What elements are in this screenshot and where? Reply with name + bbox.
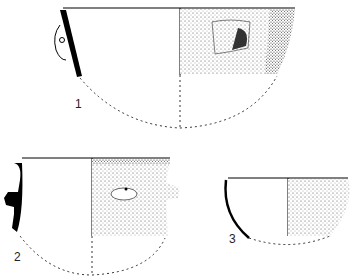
vessel-1 bbox=[55, 8, 295, 128]
vessel-2 bbox=[4, 158, 180, 275]
vessel-1-number: 1 bbox=[75, 97, 82, 111]
vessel-2-number: 2 bbox=[14, 250, 21, 264]
pottery-drawings bbox=[0, 0, 355, 278]
vessel-3-number: 3 bbox=[229, 232, 236, 246]
vessel-3 bbox=[225, 178, 349, 245]
